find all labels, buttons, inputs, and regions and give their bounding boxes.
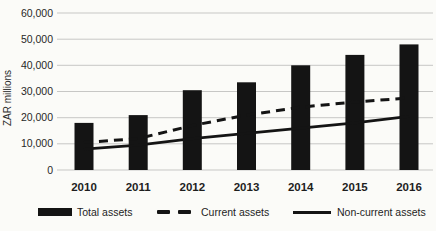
y-tick-label: 20,000 — [21, 111, 53, 123]
bar-2013 — [237, 82, 256, 170]
y-axis-title: ZAR millions — [2, 70, 13, 126]
assets-chart-figure: ZAR millions 010,00020,00030,00040,00050… — [0, 0, 436, 231]
y-tick-label: 40,000 — [21, 59, 53, 71]
legend-item-total-assets: Total assets — [38, 201, 132, 223]
legend-label-current-assets: Current assets — [201, 206, 269, 218]
bar-2012 — [183, 90, 202, 170]
bar-2011 — [129, 115, 148, 170]
x-tick-label-2015: 2015 — [342, 181, 368, 193]
bar-2015 — [345, 55, 364, 170]
legend-label-non-current-assets: Non-current assets — [337, 206, 426, 218]
x-tick-label-2010: 2010 — [71, 181, 97, 193]
total-assets-bar-swatch — [38, 208, 72, 216]
x-tick-label-2013: 2013 — [234, 181, 260, 193]
y-tick-label: 10,000 — [21, 137, 53, 149]
y-tick-label: 50,000 — [21, 33, 53, 45]
bar-line-chart: ZAR millions 010,00020,00030,00040,00050… — [0, 0, 436, 200]
y-tick-label: 0 — [47, 164, 53, 176]
dash-gap — [170, 210, 178, 214]
y-tick-label: 60,000 — [21, 7, 53, 19]
y-tick-label: 30,000 — [21, 85, 53, 97]
dash-segment — [178, 210, 191, 214]
bar-2010 — [75, 123, 94, 170]
dash-segment — [157, 210, 170, 214]
x-tick-label-2016: 2016 — [396, 181, 422, 193]
current-assets-dashed-swatch — [157, 210, 195, 214]
bar-2016 — [400, 44, 419, 170]
x-tick-label-2012: 2012 — [180, 181, 206, 193]
legend-item-non-current-assets: Non-current assets — [293, 201, 426, 223]
x-tick-label-2011: 2011 — [126, 181, 152, 193]
legend-label-total-assets: Total assets — [77, 206, 132, 218]
chart-legend: Total assets Current assets Non-current … — [0, 201, 436, 223]
x-tick-label-2014: 2014 — [288, 181, 314, 193]
non-current-assets-line-swatch — [293, 211, 331, 214]
legend-item-current-assets: Current assets — [157, 201, 269, 223]
bar-2014 — [291, 65, 310, 170]
